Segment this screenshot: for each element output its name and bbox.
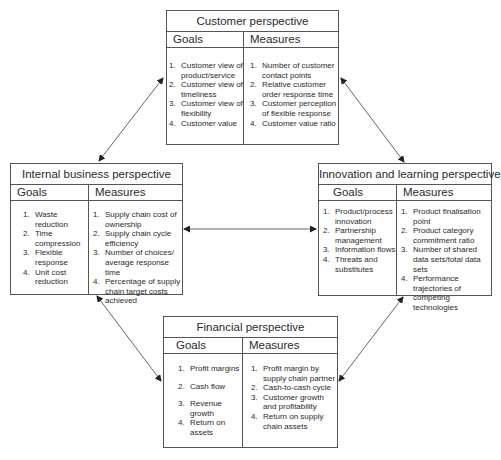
goals-column: 1.Profit margins 2.Cash flow 3.Revenue g… xyxy=(164,354,243,447)
goals-list: 1.Waste reduction 2.Time compression 3.F… xyxy=(23,210,88,287)
box-title: Customer perspective xyxy=(167,11,338,32)
goal-item: 1.Profit margins xyxy=(178,364,242,374)
goal-item: 3.Flexible response xyxy=(23,248,88,267)
measures-column: 1.Supply chain cost of ownership 2.Suppl… xyxy=(89,201,182,294)
goals-list: 1.Customer view of product/service 2.Cus… xyxy=(169,61,243,128)
measure-item: 4.Customer value ratio xyxy=(250,119,338,129)
measures-list: 1.Profit margin by supply chain partner … xyxy=(251,364,337,431)
goals-list: 1.Product/process innovation 2.Partnersh… xyxy=(323,207,396,274)
goal-item: 1.Customer view of product/service xyxy=(169,61,243,80)
column-headers: Goals Measures xyxy=(319,185,491,201)
goals-column: 1.Product/process innovation 2.Partnersh… xyxy=(319,201,397,295)
goal-item: 3.Revenue growth xyxy=(178,399,242,418)
box-body: 1.Product/process innovation 2.Partnersh… xyxy=(319,201,491,295)
measures-header: Measures xyxy=(243,338,300,353)
measure-item: 2.Supply chain cycle efficiency xyxy=(93,229,182,248)
measure-item: 2.Product category commitment ratio xyxy=(401,226,491,245)
goal-item: 4.Threats and substitutes xyxy=(323,255,396,274)
customer-perspective-box: Customer perspective Goals Measures 1.Cu… xyxy=(166,10,339,145)
measure-item: 1.Profit margin by supply chain partner xyxy=(251,364,337,383)
arrow-innovation-financial xyxy=(339,297,403,381)
goal-item: 1.Product/process innovation xyxy=(323,207,396,226)
measure-item: 4.Performance trajectories of competing … xyxy=(401,274,491,312)
goal-item: 1.Waste reduction xyxy=(23,210,88,229)
measure-item: 1.Product finalisation point xyxy=(401,207,491,226)
box-body: 1.Customer view of product/service 2.Cus… xyxy=(167,48,338,144)
goal-item: 2.Customer view of timeliness xyxy=(169,80,243,99)
goal-item: 4.Customer value xyxy=(169,119,243,129)
internal-business-perspective-box: Internal business perspective Goals Meas… xyxy=(10,163,183,295)
measure-item: 1.Number of customer contact points xyxy=(250,61,338,80)
measures-list: 1.Product finalisation point 2.Product c… xyxy=(401,207,491,313)
box-body: 1.Profit margins 2.Cash flow 3.Revenue g… xyxy=(164,354,337,447)
box-title: Financial perspective xyxy=(164,317,337,338)
measure-item: 2.Relative customer order response time xyxy=(250,80,338,99)
innovation-learning-perspective-box: Innovation and learning perspective Goal… xyxy=(318,163,492,296)
arrow-internal-financial xyxy=(97,296,161,381)
measures-column: 1.Profit margin by supply chain partner … xyxy=(243,354,337,447)
goals-header: Goals xyxy=(164,338,243,353)
measures-column: 1.Number of customer contact points 2.Re… xyxy=(244,48,338,144)
measures-header: Measures xyxy=(89,185,146,200)
goal-item: 4.Unit cost reduction xyxy=(23,268,88,287)
box-title: Internal business perspective xyxy=(11,164,182,185)
measure-item: 1.Supply chain cost of ownership xyxy=(93,210,182,229)
measures-list: 1.Number of customer contact points 2.Re… xyxy=(250,61,338,128)
measure-item: 2.Cash-to-cash cycle xyxy=(251,383,337,393)
column-headers: Goals Measures xyxy=(167,32,338,48)
measure-item: 4.Percentage of supply chain target cost… xyxy=(93,277,182,306)
measures-list: 1.Supply chain cost of ownership 2.Suppl… xyxy=(93,210,182,306)
goals-list: 1.Profit margins 2.Cash flow 3.Revenue g… xyxy=(178,364,242,438)
measure-item: 3.Number of shared data sets/total data … xyxy=(401,245,491,274)
financial-perspective-box: Financial perspective Goals Measures 1.P… xyxy=(163,316,338,448)
box-title: Innovation and learning perspective xyxy=(319,164,491,185)
measures-column: 1.Product finalisation point 2.Product c… xyxy=(397,201,491,295)
measure-item: 3.Number of choices/ average response ti… xyxy=(93,248,182,277)
goals-header: Goals xyxy=(167,32,244,47)
goals-header: Goals xyxy=(11,185,89,200)
measure-item: 4.Return on supply chain assets xyxy=(251,412,337,431)
column-headers: Goals Measures xyxy=(164,338,337,354)
goal-item: 4.Return on assets xyxy=(178,418,242,437)
measures-header: Measures xyxy=(244,32,301,47)
column-headers: Goals Measures xyxy=(11,185,182,201)
goal-item: 2.Cash flow xyxy=(178,382,242,392)
measures-header: Measures xyxy=(397,185,454,200)
goals-header: Goals xyxy=(319,185,397,200)
arrow-customer-internal xyxy=(99,78,163,161)
arrow-customer-innovation xyxy=(341,78,404,162)
goal-item: 2.Partnership management xyxy=(323,226,396,245)
goals-column: 1.Waste reduction 2.Time compression 3.F… xyxy=(11,201,89,294)
goal-item: 2.Time compression xyxy=(23,229,88,248)
goals-column: 1.Customer view of product/service 2.Cus… xyxy=(167,48,244,144)
box-body: 1.Waste reduction 2.Time compression 3.F… xyxy=(11,201,182,294)
goal-item: 3.Customer view of flexibility xyxy=(169,99,243,118)
goal-item: 3.Information flows xyxy=(323,245,396,255)
measure-item: 3.Customer perception of flexible respon… xyxy=(250,99,338,118)
measure-item: 3.Customer growth and profitability xyxy=(251,393,337,412)
